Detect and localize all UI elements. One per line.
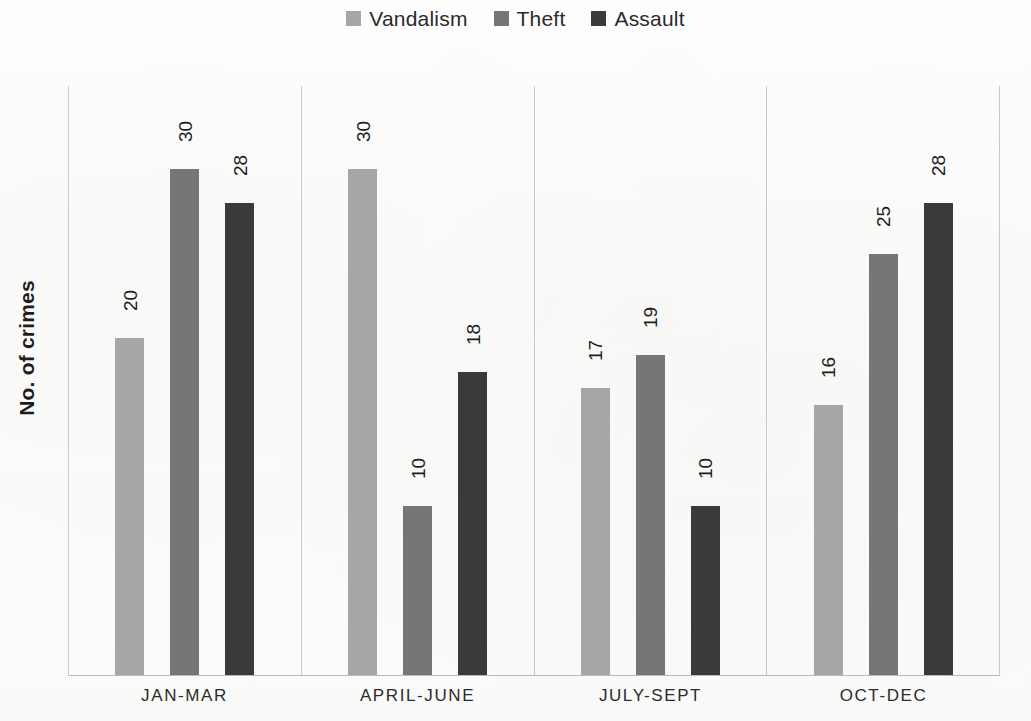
bar-assault[interactable]: [691, 506, 720, 675]
legend-swatch-assault: [591, 11, 606, 26]
bar-theft[interactable]: [170, 169, 199, 675]
bar-group-jan-mar: 203028: [69, 86, 301, 675]
bar-slot-assault: 18: [458, 86, 487, 675]
bar-theft[interactable]: [403, 506, 432, 675]
bar-vandalism[interactable]: [814, 405, 843, 675]
bar-group-july-sept: 171910: [534, 86, 767, 675]
bar-slot-theft: 19: [636, 86, 665, 675]
bar-group-oct-dec: 162528: [766, 86, 999, 675]
bar-slot-vandalism: 20: [115, 86, 144, 675]
category-axis: JAN-MARAPRIL-JUNEJULY-SEPTOCT-DEC: [68, 686, 1000, 706]
bar-slot-assault: 10: [691, 86, 720, 675]
bar-value-label: 30: [353, 121, 372, 142]
bar-vandalism[interactable]: [115, 338, 144, 675]
bar-theft[interactable]: [636, 355, 665, 675]
plot-area: 203028301018171910162528: [68, 86, 1000, 676]
grouped-bar-chart: Vandalism Theft Assault No. of crimes 20…: [0, 0, 1031, 721]
bar-value-label: 28: [230, 155, 249, 176]
legend-swatch-theft: [494, 11, 509, 26]
bar-vandalism[interactable]: [581, 388, 610, 675]
bar-assault[interactable]: [458, 372, 487, 675]
bar-slot-assault: 28: [225, 86, 254, 675]
bar-assault[interactable]: [924, 203, 953, 675]
bar-vandalism[interactable]: [348, 169, 377, 675]
category-label-april-june: APRIL-JUNE: [301, 686, 534, 706]
bar-value-label: 17: [586, 340, 605, 361]
bar-value-label: 18: [463, 323, 482, 344]
legend-item-assault[interactable]: Assault: [591, 8, 684, 29]
bar-slot-theft: 10: [403, 86, 432, 675]
bar-value-label: 16: [819, 357, 838, 378]
legend-item-vandalism[interactable]: Vandalism: [346, 8, 467, 29]
category-label-oct-dec: OCT-DEC: [767, 686, 1000, 706]
category-label-jan-mar: JAN-MAR: [68, 686, 301, 706]
bar-slot-vandalism: 30: [348, 86, 377, 675]
chart-legend: Vandalism Theft Assault: [0, 8, 1031, 29]
y-axis-title: No. of crimes: [15, 258, 39, 438]
bar-value-label: 10: [696, 458, 715, 479]
bar-value-label: 10: [408, 458, 427, 479]
bar-assault[interactable]: [225, 203, 254, 675]
bar-value-label: 20: [120, 290, 139, 311]
bar-theft[interactable]: [869, 254, 898, 675]
legend-item-theft[interactable]: Theft: [494, 8, 566, 29]
category-label-july-sept: JULY-SEPT: [534, 686, 767, 706]
legend-label-vandalism: Vandalism: [369, 8, 467, 29]
legend-label-theft: Theft: [517, 8, 566, 29]
bar-value-label: 25: [874, 205, 893, 226]
bar-group-april-june: 301018: [301, 86, 534, 675]
bar-value-label: 19: [641, 307, 660, 328]
bar-slot-theft: 30: [170, 86, 199, 675]
legend-swatch-vandalism: [346, 11, 361, 26]
bar-slot-vandalism: 17: [581, 86, 610, 675]
bar-value-label: 30: [175, 121, 194, 142]
bar-slot-assault: 28: [924, 86, 953, 675]
legend-label-assault: Assault: [614, 8, 684, 29]
bar-slot-vandalism: 16: [814, 86, 843, 675]
bar-value-label: 28: [929, 155, 948, 176]
bar-slot-theft: 25: [869, 86, 898, 675]
